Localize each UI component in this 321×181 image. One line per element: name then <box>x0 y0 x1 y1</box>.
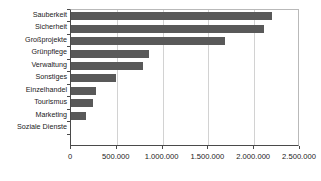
bar-row <box>71 122 298 134</box>
value-tick <box>207 146 208 149</box>
bar-row <box>71 10 298 22</box>
category-tick <box>67 121 70 122</box>
category-tick <box>67 134 70 135</box>
bar-row <box>71 85 298 97</box>
value-tick <box>162 146 163 149</box>
category-tick <box>67 21 70 22</box>
bar-row <box>71 72 298 84</box>
bar <box>71 62 143 70</box>
bar <box>71 74 116 82</box>
value-tick-label: 2.500.000 <box>282 152 316 162</box>
bar-row <box>71 60 298 72</box>
bar <box>71 50 149 58</box>
value-tick <box>116 146 117 149</box>
value-tick-label: 1.000.000 <box>145 152 179 162</box>
category-label: Tourismus <box>0 96 67 108</box>
category-label: Marketing <box>0 109 67 121</box>
category-tick <box>67 9 70 10</box>
bar <box>71 112 86 120</box>
category-tick <box>67 84 70 85</box>
bar-row <box>71 110 298 122</box>
bar <box>71 37 225 45</box>
category-label: Verwaltung <box>0 59 67 71</box>
plot-area <box>70 9 299 146</box>
value-tick <box>253 146 254 149</box>
bar <box>71 25 264 33</box>
category-tick <box>67 59 70 60</box>
bar-row <box>71 47 298 59</box>
value-tick <box>70 146 71 149</box>
category-label: Großprojekte <box>0 34 67 46</box>
value-tick-label: 2.000.000 <box>236 152 270 162</box>
category-label: Sauberkeit <box>0 9 67 21</box>
bar <box>71 12 272 20</box>
category-tick <box>67 96 70 97</box>
bar-series <box>71 10 298 145</box>
value-tick-label: 500.000 <box>102 152 129 162</box>
category-tick <box>67 34 70 35</box>
bar-row <box>71 97 298 109</box>
value-tick-label: 1.500.000 <box>190 152 224 162</box>
value-axis: 0500.0001.000.0001.500.0002.000.0002.500… <box>0 146 321 181</box>
bar <box>71 99 93 107</box>
value-tick <box>299 146 300 149</box>
category-tick <box>67 71 70 72</box>
category-label: Grünpflege <box>0 46 67 58</box>
category-axis-labels: SauberkeitSicherheitGroßprojekteGrünpfle… <box>0 9 67 146</box>
category-label: Sicherheit <box>0 21 67 33</box>
category-label: Soziale Dienste <box>0 121 67 133</box>
category-label: Einzelhandel <box>0 84 67 96</box>
bar-row <box>71 35 298 47</box>
category-tick <box>67 46 70 47</box>
bar-row <box>71 22 298 34</box>
value-tick-label: 0 <box>68 152 72 162</box>
bar-chart: SauberkeitSicherheitGroßprojekteGrünpfle… <box>0 0 321 181</box>
category-tick <box>67 109 70 110</box>
bar <box>71 87 96 95</box>
category-label: Sonstiges <box>0 71 67 83</box>
